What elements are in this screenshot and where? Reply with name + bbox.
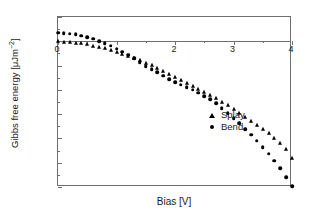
data-point-bend bbox=[126, 53, 130, 57]
data-point-bend bbox=[109, 44, 113, 48]
y-tick bbox=[58, 187, 62, 188]
data-point-splay bbox=[161, 69, 165, 73]
x-tick-minor bbox=[146, 41, 147, 43]
y-tick bbox=[58, 66, 62, 67]
data-point-splay bbox=[56, 39, 60, 43]
data-point-splay bbox=[115, 50, 119, 54]
zero-axis-line bbox=[58, 41, 290, 42]
data-point-splay bbox=[155, 66, 159, 70]
chart-figure: Gibbs free energy [μJm−2] 200−20−40−60−8… bbox=[0, 0, 311, 216]
chart-legend: SplayBend bbox=[206, 109, 245, 133]
data-point-splay bbox=[97, 45, 101, 49]
data-point-splay bbox=[191, 83, 195, 87]
data-point-splay bbox=[272, 136, 276, 140]
plot-area: SplayBend bbox=[57, 16, 291, 186]
data-point-bend bbox=[97, 39, 101, 43]
x-tick-label: 2 bbox=[171, 45, 176, 54]
data-point-splay bbox=[208, 93, 212, 97]
y-axis-title-tail: ] bbox=[9, 38, 20, 41]
data-point-splay bbox=[79, 41, 83, 45]
x-axis-title: Bias [V] bbox=[57, 196, 291, 207]
y-axis-title-main: Gibbs free energy [μJm bbox=[9, 49, 20, 148]
data-point-bend bbox=[249, 133, 253, 137]
data-point-bend bbox=[202, 94, 206, 98]
x-tick-label: 4 bbox=[288, 45, 293, 54]
y-tick-minor bbox=[58, 29, 60, 30]
data-point-bend bbox=[290, 185, 294, 189]
data-point-bend bbox=[279, 166, 283, 170]
data-point-splay bbox=[62, 39, 66, 43]
data-point-splay bbox=[74, 40, 78, 44]
data-point-bend bbox=[214, 102, 218, 106]
data-point-splay bbox=[249, 118, 253, 122]
data-point-splay bbox=[278, 140, 282, 144]
data-point-bend bbox=[74, 33, 78, 37]
legend-item-splay: Splay bbox=[206, 109, 245, 121]
data-point-splay bbox=[85, 42, 89, 46]
data-point-splay bbox=[226, 103, 230, 107]
data-point-bend bbox=[197, 91, 201, 95]
data-point-bend bbox=[267, 152, 271, 156]
y-axis-title-exponent: −2 bbox=[8, 41, 15, 49]
data-point-bend bbox=[85, 35, 89, 39]
data-point-splay bbox=[255, 123, 259, 127]
circle-marker-icon bbox=[206, 125, 218, 130]
data-point-bend bbox=[115, 47, 119, 51]
y-tick-minor bbox=[58, 102, 60, 103]
data-point-splay bbox=[179, 77, 183, 81]
data-point-bend bbox=[68, 32, 72, 36]
data-point-bend bbox=[156, 71, 160, 75]
legend-item-bend: Bend bbox=[206, 121, 245, 133]
data-point-splay bbox=[109, 48, 113, 52]
data-point-bend bbox=[91, 37, 95, 41]
y-tick bbox=[58, 17, 62, 18]
y-tick bbox=[58, 114, 62, 115]
x-tick bbox=[117, 41, 118, 45]
data-point-bend bbox=[167, 77, 171, 81]
data-point-bend bbox=[255, 139, 259, 143]
data-point-bend bbox=[284, 175, 288, 179]
x-tick-minor bbox=[263, 41, 264, 43]
data-point-splay bbox=[214, 96, 218, 100]
data-point-bend bbox=[185, 85, 189, 89]
data-point-bend bbox=[261, 145, 265, 149]
data-point-bend bbox=[150, 67, 154, 71]
data-point-bend bbox=[273, 159, 277, 163]
data-point-bend bbox=[208, 98, 212, 102]
data-point-splay bbox=[196, 86, 200, 90]
data-point-bend bbox=[121, 50, 125, 54]
data-point-bend bbox=[173, 80, 177, 84]
data-point-splay bbox=[261, 127, 265, 131]
triangle-marker-icon bbox=[206, 113, 218, 118]
y-tick bbox=[58, 90, 62, 91]
y-tick-minor bbox=[58, 126, 60, 127]
y-tick bbox=[58, 163, 62, 164]
data-point-bend bbox=[56, 31, 60, 35]
data-point-splay bbox=[103, 46, 107, 50]
data-point-splay bbox=[185, 80, 189, 84]
data-point-bend bbox=[144, 64, 148, 68]
y-tick-minor bbox=[58, 78, 60, 79]
data-point-splay bbox=[220, 100, 224, 104]
data-point-bend bbox=[132, 57, 136, 61]
y-tick-minor bbox=[58, 175, 60, 176]
x-tick-label: 3 bbox=[230, 45, 235, 54]
x-tick-label: 0 bbox=[54, 45, 59, 54]
data-point-splay bbox=[284, 147, 288, 151]
data-point-splay bbox=[91, 43, 95, 47]
data-point-bend bbox=[179, 83, 183, 87]
data-point-bend bbox=[62, 31, 66, 35]
y-axis-title: Gibbs free energy [μJm−2] bbox=[0, 0, 8, 38]
data-point-splay bbox=[68, 40, 72, 44]
data-point-bend bbox=[162, 74, 166, 78]
data-point-bend bbox=[138, 60, 142, 64]
data-point-splay bbox=[290, 156, 294, 160]
data-point-splay bbox=[173, 75, 177, 79]
data-point-splay bbox=[167, 72, 171, 76]
data-point-bend bbox=[80, 34, 84, 38]
legend-label: Bend bbox=[218, 121, 243, 133]
data-point-splay bbox=[202, 90, 206, 94]
y-tick-minor bbox=[58, 151, 60, 152]
data-point-bend bbox=[103, 41, 107, 45]
data-point-splay bbox=[267, 131, 271, 135]
